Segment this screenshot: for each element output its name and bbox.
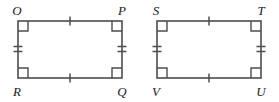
vertex-label-r: R: [12, 84, 21, 99]
rectangle-stuv-outline: [157, 21, 261, 78]
geometry-figure: O P Q R S T U: [0, 0, 279, 102]
right-angle-mark-r: [18, 68, 28, 78]
right-angle-mark-t: [251, 21, 261, 31]
vertex-label-t: T: [257, 3, 265, 18]
vertex-label-o: O: [12, 3, 22, 18]
right-angle-mark-o: [18, 21, 28, 31]
right-angle-mark-s: [157, 21, 167, 31]
right-angle-mark-q: [112, 68, 122, 78]
vertex-label-p: P: [117, 3, 126, 18]
rectangle-orqp: O P Q R: [12, 3, 127, 99]
right-angle-mark-v: [157, 68, 167, 78]
geometry-diagram-svg: O P Q R S T U: [0, 0, 279, 102]
vertex-label-u: U: [256, 84, 267, 99]
vertex-label-v: V: [152, 84, 162, 99]
vertex-label-q: Q: [117, 84, 127, 99]
right-angle-mark-p: [112, 21, 122, 31]
rectangle-stuv: S T U V: [152, 3, 267, 99]
vertex-label-s: S: [153, 3, 160, 18]
right-angle-mark-u: [251, 68, 261, 78]
rectangle-orqp-outline: [18, 21, 122, 78]
